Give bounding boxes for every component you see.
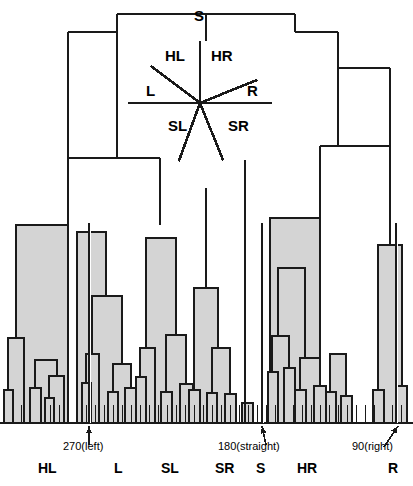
box-hl-a1-fill xyxy=(4,390,13,423)
arrow-90-right-head xyxy=(391,426,398,434)
compass-label-hr: HR xyxy=(211,47,233,64)
box-hr-c1 xyxy=(326,392,336,423)
bottom-label-r: R xyxy=(388,460,398,476)
compass-label-l: L xyxy=(146,82,155,99)
bottom-label-hr: HR xyxy=(297,460,317,476)
compass-label-hl: HL xyxy=(165,47,185,64)
dendrogram-figure: S HL HR L R SL SR 270(left) 180(straight… xyxy=(0,0,413,486)
dendrogram-canvas xyxy=(0,0,413,486)
box-r-a-fill xyxy=(373,390,384,423)
box-sl-a1-fill xyxy=(136,377,146,423)
compass-label-sr: SR xyxy=(228,117,249,134)
annotation-90-right: 90(right) xyxy=(352,440,393,452)
bottom-label-sl: SL xyxy=(161,460,179,476)
annotation-270-left: 270(left) xyxy=(63,440,103,452)
hl-ray xyxy=(150,66,200,103)
box-hl-b1-fill xyxy=(30,388,41,423)
sr-ray xyxy=(200,103,223,160)
compass-rose xyxy=(128,41,272,161)
box-hr-a1 xyxy=(268,372,278,423)
compass-label-s: S xyxy=(194,7,204,24)
box-hl-a1 xyxy=(4,390,13,423)
box-sl-a1 xyxy=(136,377,146,423)
box-r-a xyxy=(373,390,384,423)
box-hr-b1 xyxy=(295,390,306,423)
annotation-180-straight: 180(straight) xyxy=(218,440,280,452)
box-hr-c1-fill xyxy=(326,392,336,423)
bottom-label-sr: SR xyxy=(215,460,234,476)
box-hr-b1-fill xyxy=(295,390,306,423)
compass-label-sl: SL xyxy=(168,117,187,134)
bottom-label-s: S xyxy=(256,460,265,476)
compass-label-r: R xyxy=(247,82,258,99)
box-hr-a1-fill xyxy=(268,372,278,423)
bottom-label-l: L xyxy=(114,460,123,476)
arrow-270-left-head xyxy=(86,426,92,433)
box-hl-b1 xyxy=(30,388,41,423)
bottom-label-hl: HL xyxy=(38,460,57,476)
